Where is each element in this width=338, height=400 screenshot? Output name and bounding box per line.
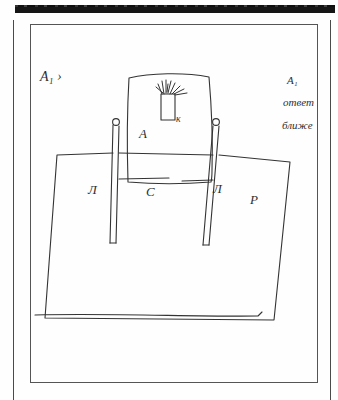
drawing-frame-border [30,24,318,383]
label-slot: к [176,114,181,124]
scanned-page: А₁ › А₁ ответ ближе А к Л С Л Р [0,0,338,400]
annotation-top-left: А₁ › [40,68,62,86]
page-edge-line-right [330,20,331,400]
label-right-leg-region: Л [213,182,222,195]
annotation-top-right-line3: ближе [282,119,313,133]
label-seat-center: С [146,185,155,198]
annotation-top-right-line1: А₁ [287,74,298,88]
page-edge-line-left [13,20,14,400]
label-right-surface: Р [250,193,258,206]
scan-noise [15,5,335,7]
label-left-leg-region: Л [88,183,97,196]
label-chair-back: А [139,127,147,140]
annotation-top-right-line2: ответ [283,96,314,110]
scan-artifact-bar [15,5,335,13]
